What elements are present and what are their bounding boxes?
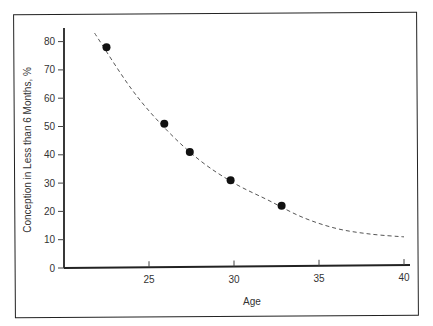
svg-text:80: 80: [44, 36, 56, 47]
svg-text:40: 40: [398, 272, 410, 283]
svg-text:40: 40: [44, 149, 56, 160]
data-point: [160, 120, 168, 128]
svg-text:10: 10: [44, 234, 56, 245]
svg-text:60: 60: [44, 93, 56, 104]
svg-text:70: 70: [44, 64, 56, 75]
data-points: [103, 43, 286, 209]
svg-text:0: 0: [49, 263, 55, 274]
svg-text:35: 35: [313, 273, 325, 284]
svg-text:25: 25: [143, 274, 155, 285]
svg-text:20: 20: [44, 206, 56, 217]
x-axis-label: Age: [243, 296, 261, 307]
chart: 01020304050607080 25303540 Age Conceptio…: [0, 0, 433, 326]
data-point: [186, 148, 194, 156]
x-ticks: 25303540: [143, 259, 410, 285]
x-axis: [64, 265, 410, 268]
trend-line: [95, 33, 404, 237]
y-ticks: 01020304050607080: [44, 36, 64, 273]
data-point: [103, 43, 111, 51]
data-point: [227, 176, 235, 184]
y-axis-label: Conception in Less than 6 Months, %: [22, 67, 33, 233]
svg-text:30: 30: [44, 178, 56, 189]
svg-text:50: 50: [44, 121, 56, 132]
data-point: [278, 202, 286, 210]
svg-text:30: 30: [228, 274, 240, 285]
